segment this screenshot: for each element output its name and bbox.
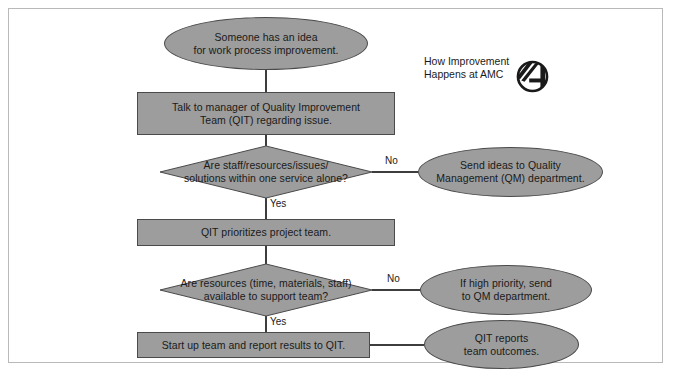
node-decision-resources-label: Are resources (time, materials, staff) a… <box>175 277 358 303</box>
amc-logo-icon <box>516 60 549 93</box>
node-send-to-qm[interactable]: Send ideas to Quality Management (QM) de… <box>418 147 603 197</box>
node-start[interactable]: Someone has an idea for work process imp… <box>164 17 368 70</box>
node-qit-reports[interactable]: QIT reports team outcomes. <box>424 320 579 369</box>
node-high-priority-qm-label: If high priority, send to QM department. <box>454 277 558 303</box>
node-high-priority-qm[interactable]: If high priority, send to QM department. <box>420 265 592 315</box>
edge-label-no-resources: No <box>387 273 400 285</box>
edge-label-no-one-service: No <box>385 155 398 167</box>
node-qit-prioritizes[interactable]: QIT prioritizes project team. <box>137 219 395 246</box>
node-start-label: Someone has an idea for work process imp… <box>188 31 345 57</box>
flowchart-canvas: Someone has an idea for work process imp… <box>0 0 673 380</box>
node-talk-to-manager[interactable]: Talk to manager of Quality Improvement T… <box>137 92 395 135</box>
node-start-up-team-label: Start up team and report results to QIT. <box>156 339 352 352</box>
node-decision-one-service[interactable]: Are staff/resources/issues/ solutions wi… <box>160 152 372 192</box>
node-qit-reports-label: QIT reports team outcomes. <box>458 332 545 358</box>
node-decision-one-service-label: Are staff/resources/issues/ solutions wi… <box>178 159 354 185</box>
node-start-up-team[interactable]: Start up team and report results to QIT. <box>137 332 370 358</box>
edge-label-yes-one-service: Yes <box>270 198 286 210</box>
edge-label-yes-resources: Yes <box>270 316 286 328</box>
node-qit-prioritizes-label: QIT prioritizes project team. <box>195 226 337 239</box>
node-send-to-qm-label: Send ideas to Quality Management (QM) de… <box>430 159 590 185</box>
node-talk-to-manager-label: Talk to manager of Quality Improvement T… <box>166 101 366 127</box>
node-decision-resources[interactable]: Are resources (time, materials, staff) a… <box>155 270 377 310</box>
diagram-page: Someone has an idea for work process imp… <box>0 0 673 380</box>
amc-logo <box>516 60 549 93</box>
